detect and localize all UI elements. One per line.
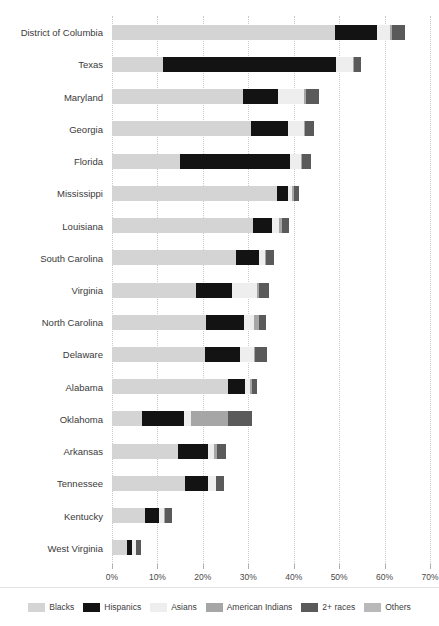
chart-legend: BlacksHispanicsAsiansAmerican Indians2+ … [0, 587, 439, 620]
legend-swatch-icon [364, 603, 381, 612]
bar-segment-2-races [259, 283, 269, 298]
category-label: Alabama [66, 381, 104, 392]
legend-label: American Indians [227, 602, 293, 612]
bar-segment-hispanics [253, 218, 272, 233]
stacked-bar [112, 283, 269, 298]
stacked-bar [112, 154, 311, 169]
bar-segment-2-races [305, 121, 314, 136]
x-tick-label: 40% [274, 572, 314, 582]
bar-segment-blacks [112, 411, 142, 426]
legend-label: Asians [171, 602, 197, 612]
bar-segment-2-races [392, 25, 405, 40]
bar-segment-asians [272, 218, 279, 233]
bar-row: Louisiana [112, 218, 430, 233]
bar-segment-hispanics [206, 315, 244, 330]
bar-segment-hispanics [145, 508, 159, 523]
category-label: Maryland [64, 91, 103, 102]
bar-segment-2-races [282, 218, 289, 233]
legend-item: Asians [150, 602, 197, 612]
category-label: Kentucky [64, 510, 103, 521]
bar-segment-2-races [306, 89, 319, 104]
bar-segment-hispanics [243, 89, 278, 104]
bar-segment-asians [232, 283, 257, 298]
bar-segment-blacks [112, 250, 236, 265]
bar-segment-blacks [112, 315, 206, 330]
category-label: South Carolina [40, 252, 103, 263]
tick-mark [203, 564, 204, 569]
bar-segment-blacks [112, 25, 335, 40]
category-label: Louisiana [62, 220, 103, 231]
bar-segment-asians [278, 89, 304, 104]
stacked-bar [112, 347, 267, 362]
bar-segment-hispanics [205, 347, 240, 362]
stacked-bar-chart: District of ColumbiaTexasMarylandGeorgia… [0, 0, 439, 626]
bar-row: West Virginia [112, 540, 430, 555]
x-tick-label: 70% [410, 572, 439, 582]
category-label: Arkansas [63, 446, 103, 457]
bar-segment-blacks [112, 57, 163, 72]
bar-segment-blacks [112, 540, 127, 555]
bar-segment-blacks [112, 347, 205, 362]
bar-row: Georgia [112, 121, 430, 136]
category-label: District of Columbia [21, 27, 103, 38]
bar-segment-asians [290, 154, 301, 169]
bar-segment-blacks [112, 154, 180, 169]
category-label: Oklahoma [60, 413, 103, 424]
stacked-bar [112, 218, 289, 233]
stacked-bar [112, 57, 361, 72]
bar-row: South Carolina [112, 250, 430, 265]
bar-segment-hispanics [335, 25, 377, 40]
legend-item: Hispanics [83, 602, 141, 612]
category-label: Georgia [69, 123, 103, 134]
bar-row: Kentucky [112, 508, 430, 523]
bar-segment-2-races [136, 540, 141, 555]
stacked-bar [112, 315, 266, 330]
tick-mark [157, 564, 158, 569]
bar-segment-hispanics [180, 154, 290, 169]
bar-segment-hispanics [228, 379, 245, 394]
bar-segment-asians [208, 476, 215, 491]
x-tick-label: 20% [183, 572, 223, 582]
bar-segment-american-indians [191, 411, 228, 426]
category-label: Delaware [63, 349, 103, 360]
stacked-bar [112, 540, 141, 555]
x-tick-label: 60% [365, 572, 405, 582]
bar-segment-hispanics [142, 411, 184, 426]
bar-segment-2-races [165, 508, 172, 523]
legend-swatch-icon [28, 603, 45, 612]
bar-segment-2-races [266, 250, 274, 265]
bar-row: District of Columbia [112, 25, 430, 40]
tick-mark [339, 564, 340, 569]
bar-segment-asians [240, 347, 254, 362]
bar-segment-2-races [252, 379, 257, 394]
legend-item: Blacks [28, 602, 74, 612]
category-label: Mississippi [57, 188, 103, 199]
bar-segment-blacks [112, 121, 251, 136]
legend-swatch-icon [206, 603, 223, 612]
bar-row: Maryland [112, 89, 430, 104]
bar-segment-hispanics [196, 283, 232, 298]
bar-row: Texas [112, 57, 430, 72]
bar-segment-blacks [112, 218, 253, 233]
bar-segment-asians [244, 315, 254, 330]
bar-row: Mississippi [112, 186, 430, 201]
bar-segment-2-races [217, 444, 226, 459]
bar-segment-blacks [112, 508, 145, 523]
legend-item: Others [364, 602, 411, 612]
bar-row: Alabama [112, 379, 430, 394]
bar-segment-asians [336, 57, 353, 72]
category-label: Virginia [71, 285, 103, 296]
stacked-bar [112, 186, 299, 201]
tick-mark [112, 564, 113, 569]
bar-segment-asians [377, 25, 391, 40]
bar-segment-blacks [112, 476, 185, 491]
stacked-bar [112, 250, 274, 265]
category-label: West Virginia [47, 542, 103, 553]
bar-segment-hispanics [178, 444, 208, 459]
tick-mark [248, 564, 249, 569]
tick-mark [294, 564, 295, 569]
bar-segment-hispanics [251, 121, 288, 136]
stacked-bar [112, 444, 226, 459]
bar-row: Tennessee [112, 476, 430, 491]
bar-segment-hispanics [185, 476, 208, 491]
